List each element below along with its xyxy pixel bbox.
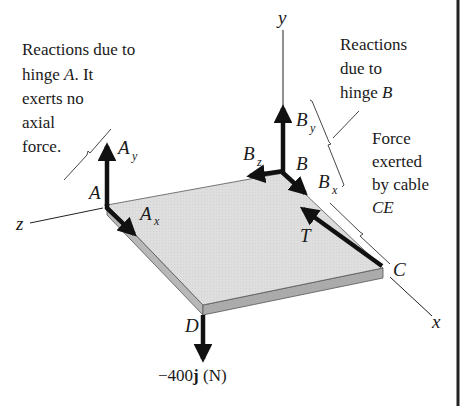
annotation-cable: Force exerted by cable CE [372,129,429,217]
diagram-canvas: y z x A B C D A y A x B y B z B x T [0,0,465,406]
svg-text:Reactions: Reactions [340,35,407,54]
point-label-d: D [184,315,199,336]
svg-text:exerted: exerted [372,152,423,171]
label-load: −400j (N) [158,366,227,385]
point-label-b: B [296,153,308,174]
svg-text:due to: due to [340,59,382,78]
x-axis-label: x [431,311,441,332]
free-body-diagram: y z x A B C D A y A x B y B z B x T [0,0,465,406]
svg-text:hinge A. It: hinge A. It [22,65,94,84]
z-axis-label: z [15,213,24,234]
svg-text:A: A [138,203,152,224]
label-t: T [300,225,312,246]
x-axis-line [390,277,432,316]
svg-text:x: x [153,214,160,228]
point-label-c: C [393,259,406,280]
label-bx: B x [318,171,338,197]
z-axis-line [30,208,103,223]
bracket-hinge-a [64,129,111,180]
point-label-a: A [87,182,101,203]
svg-text:Force: Force [372,129,411,148]
svg-text:exerts no: exerts no [22,89,84,108]
label-by: B y [296,109,316,135]
svg-text:y: y [131,149,138,163]
svg-text:hinge B: hinge B [340,83,393,102]
svg-text:−400j (N): −400j (N) [158,366,227,385]
svg-text:A: A [116,137,130,158]
label-ay: A y [116,137,138,163]
svg-text:B: B [243,143,255,164]
svg-text:force.: force. [22,137,61,156]
svg-text:axial: axial [22,113,55,132]
annotation-hinge-b: Reactions due to hinge B [340,35,407,102]
svg-text:y: y [309,121,316,135]
svg-text:z: z [256,155,262,169]
y-axis-label: y [276,7,287,28]
svg-text:x: x [331,183,338,197]
svg-text:CE: CE [372,198,394,217]
svg-text:B: B [318,171,330,192]
leader-hinge-b [333,111,359,138]
label-bz: B z [243,143,262,169]
svg-text:by cable: by cable [372,175,429,194]
svg-text:B: B [296,109,308,130]
svg-text:Reactions due to: Reactions due to [22,40,135,59]
